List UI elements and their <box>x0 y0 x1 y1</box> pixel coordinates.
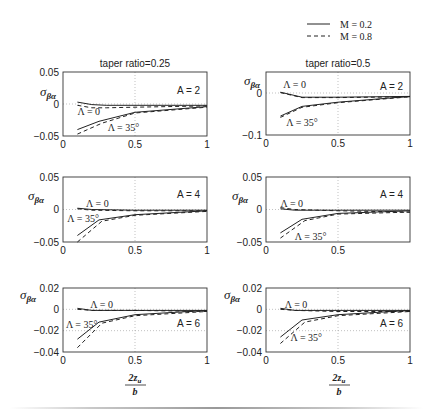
panel-tr025-A4: 0.050−0.0500.51σβαA = 4Λ = 0Λ = 35° <box>28 172 210 257</box>
xlabel-denominator: b <box>337 386 342 397</box>
panel-tr05-A2: taper ratio=0.50−0.100.51σβαA = 2Λ = 0Λ … <box>242 58 413 149</box>
y-tick-label: −0.05 <box>34 131 60 142</box>
sweep-angle-label: Λ = 35° <box>67 213 99 224</box>
x-tick-label: 1 <box>407 355 413 366</box>
xlabel-numerator-sub: u <box>342 377 346 385</box>
aspect-ratio-annotation: A = 2 <box>177 85 201 96</box>
y-tick-label: −0.04 <box>237 347 263 358</box>
y-tick-label: −0.02 <box>34 325 60 336</box>
x-tick-label: 0.5 <box>128 139 142 150</box>
sweep-angle-label: Λ = 0 <box>86 198 109 209</box>
y-axis-label: σβα <box>40 84 57 101</box>
x-tick-label: 0.5 <box>331 138 345 149</box>
x-tick-label: 0 <box>263 138 269 149</box>
y-tick-label: 0.02 <box>40 283 60 294</box>
legend-label-m08: M = 0.8 <box>340 31 372 42</box>
sweep-angle-label: Λ = 0 <box>280 198 303 209</box>
y-axis-label: σβα <box>28 188 45 205</box>
sweep-angle-label: Λ = 0 <box>90 299 113 310</box>
sweep-angle-label: Λ = 35° <box>286 117 318 128</box>
y-tick-label: 0 <box>256 304 262 315</box>
panel-tr05-A4: 0.050−0.0500.5σβαA = 4Λ = 0Λ = 35° <box>232 172 410 257</box>
y-tick-label: −0.05 <box>34 237 60 248</box>
xlabel-denominator: b <box>133 386 138 397</box>
aspect-ratio-annotation: A = 6 <box>380 318 404 329</box>
xlabel-numerator: 2z <box>332 372 342 383</box>
xlabel-numerator: 2z <box>128 372 138 383</box>
y-tick-label: 0 <box>53 204 59 215</box>
svg-text:2zu: 2zu <box>332 372 346 385</box>
x-tick-label: 0.5 <box>128 245 142 256</box>
x-tick-label: 0 <box>263 245 269 256</box>
xlabel-right: 2zu b <box>329 372 350 397</box>
x-tick-label: 0.5 <box>128 355 142 366</box>
panel-title: taper ratio=0.5 <box>306 58 371 69</box>
y-tick-label: 0 <box>256 204 262 215</box>
x-tick-label: 0 <box>60 355 66 366</box>
xlabel-left: 2zu b <box>125 372 146 397</box>
svg-text:2zu: 2zu <box>128 372 142 385</box>
sweep-angle-label: Λ = 0 <box>285 299 308 310</box>
y-tick-label: 0.02 <box>243 283 263 294</box>
y-axis-label: σβα <box>232 188 249 205</box>
y-tick-label: −0.1 <box>242 130 262 141</box>
panel-title: taper ratio=0.25 <box>100 58 171 69</box>
y-tick-label: 0.05 <box>40 172 60 183</box>
figure: M = 0.2 M = 0.8 taper ratio=0.250.050−0.… <box>0 0 433 419</box>
x-tick-label: 0.5 <box>331 355 345 366</box>
x-tick-label: 0 <box>60 245 66 256</box>
xlabel-numerator-sub: u <box>138 377 142 385</box>
y-tick-label: 0.05 <box>40 67 60 78</box>
x-tick-label: 0.5 <box>331 245 345 256</box>
sweep-angle-label: Λ = 35° <box>108 122 140 133</box>
x-tick-label: 1 <box>407 138 413 149</box>
series-line <box>280 96 410 116</box>
panel-tr025-A6: 0.020−0.02−0.0400.51σβαA = 6Λ = 0Λ = 35° <box>20 283 210 367</box>
y-tick-label: −0.04 <box>34 347 60 358</box>
sweep-angle-label: Λ = 35° <box>290 332 322 343</box>
x-tick-label: 0 <box>60 139 66 150</box>
bottom-divider <box>10 407 423 409</box>
y-axis-label: σβα <box>244 73 261 90</box>
y-tick-label: −0.02 <box>237 325 263 336</box>
y-tick-label: 0 <box>53 304 59 315</box>
sweep-angle-label: Λ = 0 <box>283 79 306 90</box>
sweep-angle-label: Λ = 0 <box>77 106 100 117</box>
sweep-angle-label: Λ = 35° <box>295 231 327 242</box>
x-tick-label: 0 <box>263 355 269 366</box>
panel-tr025-A2: taper ratio=0.250.050−0.0500.51σβαA = 2Λ… <box>34 58 211 150</box>
aspect-ratio-annotation: A = 6 <box>177 318 201 329</box>
sweep-angle-label: Λ = 35° <box>66 319 98 330</box>
panel-tr05-A6: 0.020−0.02−0.0400.51σβαA = 6Λ = 0Λ = 35° <box>224 283 413 367</box>
aspect-ratio-annotation: A = 4 <box>380 189 404 200</box>
panels: taper ratio=0.250.050−0.0500.51σβαA = 2Λ… <box>20 58 413 366</box>
legend-label-m02: M = 0.2 <box>340 19 372 30</box>
y-tick-label: 0.05 <box>243 172 263 183</box>
aspect-ratio-annotation: A = 2 <box>380 81 404 92</box>
x-tick-label: 1 <box>204 139 210 150</box>
x-tick-label: 1 <box>204 355 210 366</box>
x-tick-label: 1 <box>204 245 210 256</box>
y-tick-label: −0.05 <box>237 237 263 248</box>
y-axis-label: σβα <box>224 287 241 304</box>
aspect-ratio-annotation: A = 4 <box>177 189 201 200</box>
y-axis-label: σβα <box>20 287 37 304</box>
legend: M = 0.2 M = 0.8 <box>307 19 372 42</box>
